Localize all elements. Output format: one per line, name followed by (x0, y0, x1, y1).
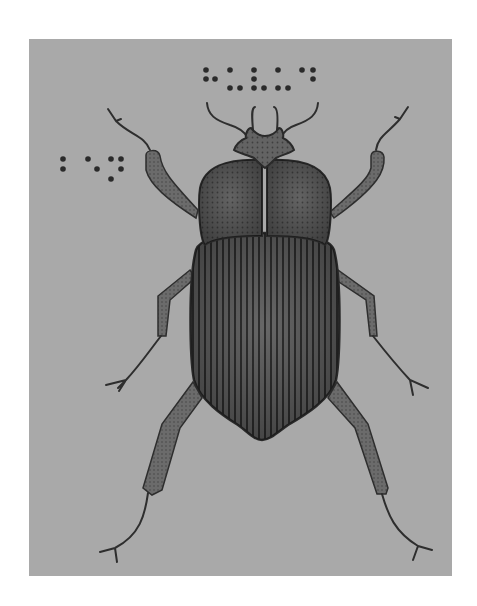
braille-dot (108, 176, 114, 182)
braille-dot (261, 85, 267, 91)
braille-dot (275, 85, 281, 91)
braille-dot (60, 166, 66, 172)
braille-dot (118, 166, 124, 172)
braille-dot (203, 67, 209, 73)
braille-dot (212, 76, 218, 82)
braille-dot (237, 85, 243, 91)
braille-dot (310, 67, 316, 73)
braille-dot (310, 76, 316, 82)
braille-dot (203, 76, 209, 82)
braille-dot (251, 67, 257, 73)
braille-dot (118, 156, 124, 162)
beetle-illustration (0, 0, 477, 606)
braille-dot (251, 76, 257, 82)
braille-dot (285, 85, 291, 91)
braille-dot (227, 67, 233, 73)
braille-dot (108, 156, 114, 162)
elytra-left-shading (199, 160, 262, 245)
braille-dot (299, 67, 305, 73)
braille-dot (85, 156, 91, 162)
braille-dot (275, 67, 281, 73)
braille-dot (227, 85, 233, 91)
braille-dot (94, 166, 100, 172)
braille-dot (60, 156, 66, 162)
braille-dot (251, 85, 257, 91)
elytra-right-shading (267, 160, 331, 245)
